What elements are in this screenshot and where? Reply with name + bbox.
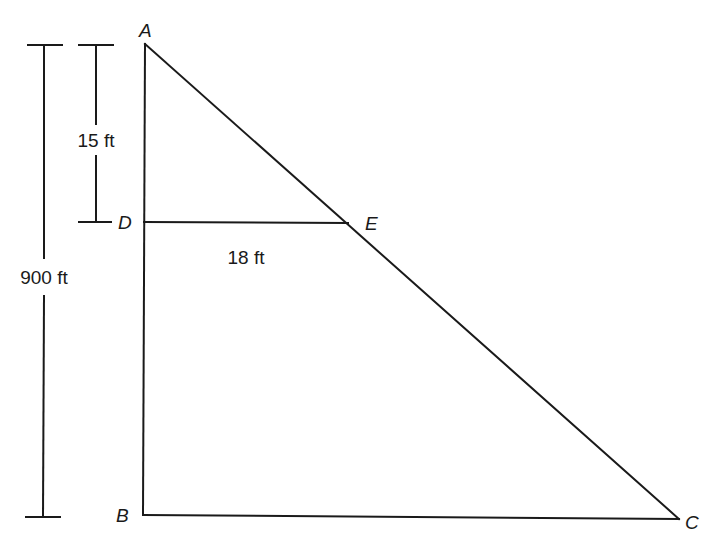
measurement-de: 18 ft — [228, 247, 266, 268]
vertex-label-b: B — [116, 505, 129, 526]
segment-de — [144, 222, 348, 223]
segment-bc — [143, 515, 679, 519]
segment-ab — [143, 44, 145, 515]
vertex-label-e: E — [365, 213, 378, 234]
measurement-ad: 15 ft — [78, 130, 116, 151]
segment-ac — [145, 44, 679, 519]
measurement-ab: 900 ft — [20, 267, 68, 288]
vertex-label-d: D — [118, 212, 132, 233]
vertex-label-a: A — [138, 20, 152, 41]
triangle-diagram: A D E B C 15 ft 18 ft 900 ft — [0, 0, 716, 540]
dimension-line-lower — [43, 296, 44, 517]
vertex-label-c: C — [685, 512, 699, 533]
